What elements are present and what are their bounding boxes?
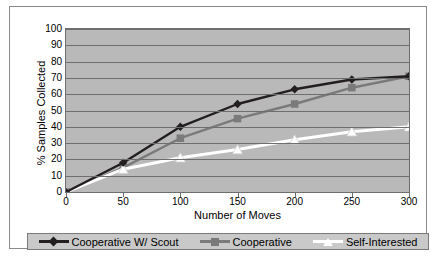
- y-tick-label: 0: [38, 187, 62, 197]
- y-axis-tick-labels: 1009080706050403020100: [36, 28, 62, 193]
- legend-label: Self-Interested: [346, 236, 418, 248]
- diamond-marker-icon: [39, 236, 69, 247]
- x-tick-label: 0: [63, 196, 69, 207]
- gridline: [66, 29, 409, 30]
- gridline: [66, 159, 409, 160]
- legend-item-cooperative-w-scout: Cooperative W/ Scout: [39, 236, 179, 248]
- square-marker-icon: [200, 236, 230, 247]
- diamond-data-marker: [290, 85, 298, 93]
- gridline: [66, 176, 409, 177]
- y-tick-label: 20: [38, 154, 62, 164]
- y-tick-label: 50: [38, 106, 62, 116]
- x-axis-tick-labels: 050100150200250300: [65, 196, 410, 208]
- square-data-marker: [177, 134, 185, 142]
- x-tick-label: 150: [229, 196, 246, 207]
- y-tick-label: 100: [38, 24, 62, 34]
- gridline: [66, 62, 409, 63]
- x-tick-label: 300: [401, 196, 418, 207]
- y-tick-label: 30: [38, 138, 62, 148]
- gridline: [66, 78, 409, 79]
- x-tick-label: 100: [172, 196, 189, 207]
- x-tick-label: 200: [286, 196, 303, 207]
- gridline: [66, 94, 409, 95]
- x-tick-label: 50: [118, 196, 129, 207]
- y-tick-label: 60: [38, 89, 62, 99]
- x-axis-title: Number of Moves: [65, 209, 410, 221]
- square-data-marker: [348, 84, 356, 92]
- gridline: [66, 45, 409, 46]
- legend-label: Cooperative: [233, 236, 292, 248]
- x-tick-label: 250: [343, 196, 360, 207]
- y-tick-label: 80: [38, 57, 62, 67]
- gridline: [66, 111, 409, 112]
- gridline: [66, 127, 409, 128]
- triangle-marker-icon: [313, 236, 343, 247]
- plot-area: [65, 28, 410, 193]
- diamond-data-marker: [348, 75, 356, 83]
- gridline: [66, 143, 409, 144]
- legend-item-self-interested: Self-Interested: [313, 236, 418, 248]
- legend-label: Cooperative W/ Scout: [72, 236, 179, 248]
- y-tick-label: 70: [38, 73, 62, 83]
- chart-frame: % Samples Collected 10090807060504030201…: [9, 6, 427, 249]
- chart-legend: Cooperative W/ Scout Cooperative Self-In…: [27, 233, 429, 250]
- legend-item-cooperative: Cooperative: [200, 236, 292, 248]
- y-tick-label: 40: [38, 122, 62, 132]
- diamond-data-marker: [233, 100, 241, 108]
- square-data-marker: [234, 115, 242, 123]
- y-tick-label: 90: [38, 40, 62, 50]
- y-tick-label: 10: [38, 171, 62, 181]
- chart-figure: % Samples Collected 10090807060504030201…: [0, 0, 436, 259]
- square-data-marker: [291, 100, 299, 108]
